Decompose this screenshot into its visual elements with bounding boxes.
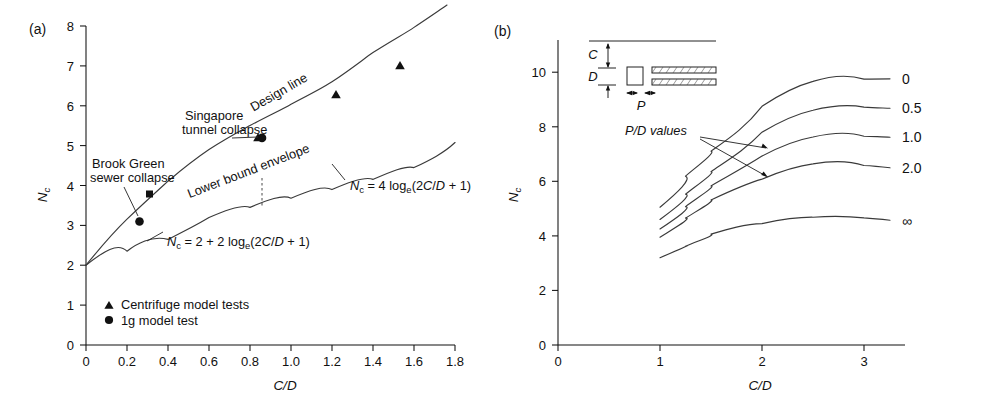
panel-a: (a) 0 1 2 3 4 5 6 7 8 bbox=[29, 5, 471, 393]
y-tick-label: 2 bbox=[67, 258, 74, 273]
inset-label-c: C bbox=[588, 47, 598, 62]
x-tick-label: 0 bbox=[82, 354, 89, 369]
panel-b-curve-pd-10 bbox=[660, 133, 890, 229]
annotation-brook-green-line1: Brook Green bbox=[92, 156, 165, 171]
curve-label-pd-10: 1.0 bbox=[902, 129, 922, 145]
x-tick-label: 1 bbox=[656, 354, 663, 369]
panel-b-curve-pd-inf bbox=[660, 216, 890, 257]
legend-label-1g: 1g model test bbox=[121, 313, 198, 328]
panel-b-curve-pd-05 bbox=[660, 106, 890, 220]
tunnel-left bbox=[627, 67, 643, 85]
square-marker bbox=[146, 191, 153, 198]
tunnel-hatching bbox=[652, 67, 712, 85]
y-tick-label: 8 bbox=[67, 19, 74, 34]
panel-b-y-axis-title: Nc bbox=[506, 188, 523, 203]
y-tick-label: 1 bbox=[67, 298, 74, 313]
annotation-equation-lower: Nc = 2 + 2 loge(2C/D + 1) bbox=[147, 232, 310, 251]
x-tick-label: 0.4 bbox=[159, 354, 177, 369]
x-tick-label: 1.0 bbox=[282, 354, 300, 369]
triangle-marker bbox=[395, 61, 405, 69]
panel-a-markers bbox=[135, 61, 405, 226]
equation-design-line: Nc = 4 loge(2C/D + 1) bbox=[350, 178, 471, 195]
panel-a-label: (a) bbox=[29, 21, 46, 37]
panel-b-label: (b) bbox=[494, 23, 511, 39]
annotation-design-line: Design line bbox=[248, 70, 310, 115]
x-tick-label: 0.6 bbox=[200, 354, 218, 369]
point-brook-green bbox=[135, 217, 144, 226]
annotation-pd-values-text: P/D values bbox=[625, 123, 687, 138]
x-tick-label: 2 bbox=[758, 354, 765, 369]
y-tick-label: 8 bbox=[539, 120, 546, 135]
annotation-lower-bound: Lower bound envelope bbox=[185, 141, 311, 201]
panel-a-y-ticks bbox=[80, 26, 86, 345]
y-tick-label: 5 bbox=[67, 139, 74, 154]
panel-b-y-tick-labels: 0 2 4 6 8 10 bbox=[532, 65, 546, 353]
legend-triangle-icon bbox=[104, 301, 113, 309]
tunnel-right-bottom bbox=[652, 79, 716, 85]
panel-b-x-axis-title: C/D bbox=[748, 378, 772, 393]
x-tick-label: 0 bbox=[554, 354, 561, 369]
legend-circle-icon bbox=[105, 316, 113, 324]
panel-b-curve-pd-20 bbox=[660, 162, 890, 238]
curve-label-pd-0: 0 bbox=[902, 71, 910, 87]
annotation-brook-green-line2: sewer collapse bbox=[90, 170, 175, 185]
x-tick-label: 1.2 bbox=[323, 354, 341, 369]
annotation-singapore-line2: tunnel collapse bbox=[182, 122, 267, 137]
x-tick-label: 3 bbox=[860, 354, 867, 369]
inset-label-d: D bbox=[588, 69, 597, 84]
y-tick-label: 6 bbox=[539, 174, 546, 189]
x-tick-label: 1.6 bbox=[405, 354, 423, 369]
curve-label-pd-20: 2.0 bbox=[902, 160, 922, 176]
panel-b-x-ticks bbox=[558, 345, 864, 351]
x-tick-label: 1.4 bbox=[364, 354, 382, 369]
panel-a-x-axis-title: C/D bbox=[273, 378, 297, 393]
y-tick-label: 10 bbox=[532, 65, 546, 80]
legend-label-centrifuge: Centrifuge model tests bbox=[121, 297, 249, 312]
x-tick-label: 0.2 bbox=[118, 354, 136, 369]
y-tick-label: 6 bbox=[67, 99, 74, 114]
triangle-marker bbox=[331, 90, 341, 98]
figure-svg: (a) 0 1 2 3 4 5 6 7 8 bbox=[0, 0, 993, 405]
figure-container: (a) 0 1 2 3 4 5 6 7 8 bbox=[0, 0, 993, 405]
panel-a-x-ticks bbox=[86, 345, 455, 351]
y-tick-label: 4 bbox=[67, 179, 74, 194]
curve-label-pd-inf: ∞ bbox=[902, 213, 912, 229]
y-tick-label: 4 bbox=[539, 229, 546, 244]
y-tick-label: 3 bbox=[67, 218, 74, 233]
panel-a-y-axis-title: Nc bbox=[35, 188, 52, 203]
panel-b-y-ticks bbox=[552, 72, 558, 345]
panel-b: (b) 0 2 4 6 8 10 Nc bbox=[494, 23, 922, 393]
svg-text:Nc: Nc bbox=[506, 188, 523, 203]
panel-b-x-tick-labels: 0 1 2 3 bbox=[554, 354, 867, 369]
annotation-singapore-line1: Singapore bbox=[185, 108, 243, 123]
y-tick-label: 2 bbox=[539, 283, 546, 298]
inset-label-p: P bbox=[637, 98, 646, 113]
panel-a-legend: Centrifuge model tests 1g model test bbox=[104, 297, 249, 328]
x-tick-label: 0.8 bbox=[241, 354, 259, 369]
svg-text:Lower bound envelope: Lower bound envelope bbox=[185, 141, 311, 201]
tunnel-right-top bbox=[652, 67, 716, 73]
y-tick-label: 0 bbox=[539, 338, 546, 353]
svg-text:Nc: Nc bbox=[35, 188, 52, 203]
y-tick-label: 0 bbox=[67, 338, 74, 353]
y-tick-label: 7 bbox=[67, 59, 74, 74]
x-tick-label: 1.8 bbox=[446, 354, 464, 369]
tunnel-geometry-diagram: C D bbox=[588, 41, 716, 113]
curve-label-pd-05: 0.5 bbox=[902, 100, 922, 116]
panel-b-curve-labels: 0 0.5 1.0 2.0 ∞ bbox=[902, 71, 922, 229]
annotation-pd-values: P/D values bbox=[625, 123, 768, 177]
equation-lower-bound: Nc = 2 + 2 loge(2C/D + 1) bbox=[167, 234, 310, 251]
panel-a-y-tick-labels: 0 1 2 3 4 5 6 7 8 bbox=[67, 19, 74, 353]
panel-a-x-tick-labels: 0 0.2 0.4 0.6 0.8 1.0 1.2 1.4 1.6 1.8 bbox=[82, 354, 464, 369]
svg-text:Design line: Design line bbox=[248, 70, 310, 115]
